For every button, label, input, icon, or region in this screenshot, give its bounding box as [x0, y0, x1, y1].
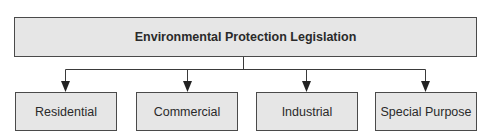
arrow-down-icon [421, 81, 430, 92]
arrow-down-icon [302, 81, 311, 92]
child-node-residential: Residential [15, 92, 117, 131]
root-node-label: Environmental Protection Legislation [135, 30, 357, 44]
child-node-commercial: Commercial [136, 92, 238, 131]
child-node-label: Special Purpose [380, 105, 471, 119]
root-node-environmental-protection-legislation: Environmental Protection Legislation [14, 17, 477, 57]
child-node-industrial: Industrial [256, 92, 358, 131]
arrow-down-icon [183, 81, 192, 92]
legislation-hierarchy-diagram: Environmental Protection Legislation Res… [0, 0, 488, 139]
child-node-special-purpose: Special Purpose [375, 92, 477, 131]
child-node-label: Commercial [154, 105, 221, 119]
arrow-down-icon [61, 81, 70, 92]
child-node-label: Industrial [282, 105, 333, 119]
child-node-label: Residential [35, 105, 97, 119]
